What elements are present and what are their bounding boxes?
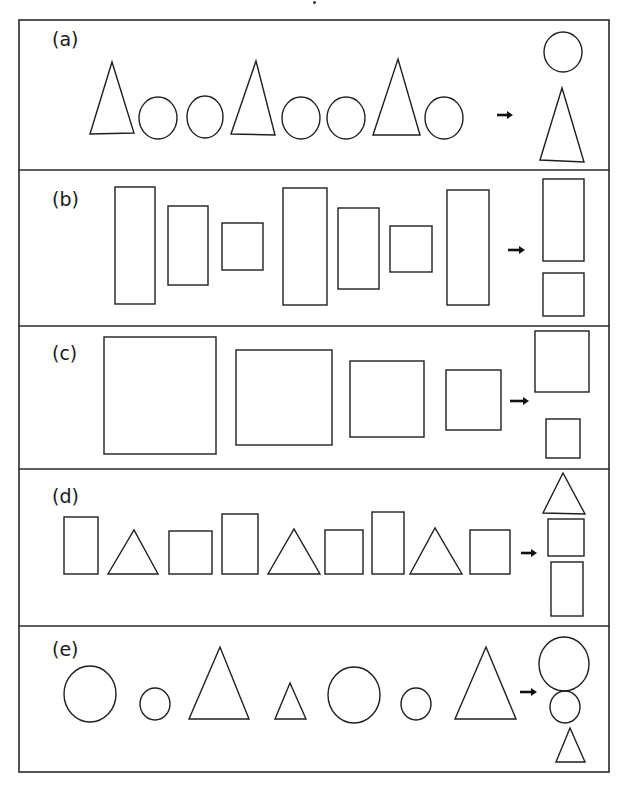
sequence-rectangle-icon <box>104 337 216 454</box>
sequence-triangle-icon <box>410 528 462 574</box>
answer-rectangle-icon <box>546 419 580 458</box>
answer-rectangle-icon <box>535 331 589 392</box>
sequence-circle-icon <box>64 666 116 722</box>
sequence-rectangle-icon <box>338 208 379 289</box>
panel-label-a: (a) <box>52 28 78 50</box>
sequence-rectangle-icon <box>168 206 208 285</box>
arrow-right-icon <box>510 397 529 405</box>
sequence-rectangle-icon <box>447 190 489 305</box>
sequence-b <box>115 187 489 305</box>
panel-d <box>64 473 585 616</box>
answer-b <box>543 179 584 316</box>
sequence-triangle-icon <box>189 647 249 719</box>
answer-triangle-icon <box>556 728 585 762</box>
answer-triangle-icon <box>540 88 584 162</box>
sequence-triangle-icon <box>268 529 320 574</box>
answer-rectangle-icon <box>543 273 584 316</box>
sequence-d <box>64 512 510 574</box>
sequence-rectangle-icon <box>222 223 263 270</box>
sequence-rectangle-icon <box>236 350 332 445</box>
sequence-circle-icon <box>328 667 380 723</box>
panel-e <box>64 637 589 762</box>
sequence-c <box>104 337 501 454</box>
answer-rectangle-icon <box>551 562 583 616</box>
answer-d <box>543 473 585 616</box>
shapes-layer <box>64 32 589 762</box>
sequence-circle-icon <box>140 688 170 720</box>
panel-label-c: (c) <box>52 342 77 364</box>
sequence-rectangle-icon <box>64 517 98 574</box>
sequence-circle-icon <box>425 97 463 139</box>
panel-label-b: (b) <box>52 188 79 210</box>
answer-e <box>539 637 589 762</box>
panel-label-d: (d) <box>52 485 79 507</box>
sequence-rectangle-icon <box>169 531 212 574</box>
answer-rectangle-icon <box>548 519 584 556</box>
panel-c <box>104 331 589 458</box>
sequence-rectangle-icon <box>372 512 404 574</box>
answer-circle-icon <box>544 32 582 72</box>
sequence-rectangle-icon <box>283 188 327 305</box>
sequence-circle-icon <box>401 688 431 720</box>
answer-a <box>540 32 584 162</box>
pattern-puzzle-diagram <box>0 0 623 789</box>
sequence-triangle-icon <box>455 647 516 719</box>
sequence-rectangle-icon <box>115 187 155 304</box>
sequence-rectangle-icon <box>222 514 258 574</box>
panel-a <box>90 32 584 162</box>
sequence-circle-icon <box>282 97 320 139</box>
arrow-right-icon <box>521 549 537 557</box>
panel-label-e: (e) <box>52 638 79 660</box>
answer-rectangle-icon <box>543 179 584 261</box>
sequence-circle-icon <box>187 96 223 138</box>
sequence-rectangle-icon <box>446 370 501 430</box>
sequence-rectangle-icon <box>470 530 510 574</box>
answer-c <box>535 331 589 458</box>
sequence-triangle-icon <box>108 530 158 574</box>
answer-circle-icon <box>550 691 580 723</box>
sequence-circle-icon <box>139 97 177 139</box>
sequence-a <box>90 59 463 139</box>
sequence-rectangle-icon <box>390 226 432 272</box>
sequence-triangle-icon <box>275 683 306 719</box>
arrow-right-icon <box>497 111 513 119</box>
arrow-right-icon <box>508 246 525 254</box>
sequence-e <box>64 647 516 723</box>
sequence-triangle-icon <box>231 61 275 135</box>
arrow-right-icon <box>520 688 537 696</box>
sequence-triangle-icon <box>90 62 134 134</box>
sequence-circle-icon <box>327 97 365 139</box>
sequence-rectangle-icon <box>325 530 363 574</box>
answer-circle-icon <box>539 637 589 691</box>
panel-b <box>115 179 584 316</box>
answer-triangle-icon <box>543 473 585 514</box>
sequence-rectangle-icon <box>350 361 424 437</box>
sequence-triangle-icon <box>373 59 420 135</box>
